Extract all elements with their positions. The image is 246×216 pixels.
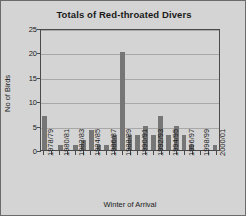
x-axis-label-slot: 1990/91 xyxy=(134,156,142,194)
x-axis-label-slot: 1996/97 xyxy=(181,156,189,194)
x-axis-label-slot: 1988/89 xyxy=(118,156,126,194)
x-axis-label: Winter of Arrival xyxy=(40,200,220,209)
x-axis-label-slot: 1978/79 xyxy=(40,156,48,194)
x-axis-tick-mark xyxy=(137,151,138,155)
x-axis-tick-label: 1998/99 xyxy=(202,129,211,156)
chart-figure: Totals of Red-throated Divers No of Bird… xyxy=(0,0,246,216)
x-axis-tick-label: 1986/87 xyxy=(109,129,118,156)
x-axis-tick-label: 1996/97 xyxy=(187,129,196,156)
x-axis-label-slot xyxy=(79,156,87,194)
x-axis-label-slot: 1992/93 xyxy=(150,156,158,194)
x-axis-label-slot xyxy=(63,156,71,194)
x-axis-label-slot: 1998/99 xyxy=(197,156,205,194)
y-axis-tick-labels: 2520151050 xyxy=(15,29,37,151)
x-axis-tick-mark xyxy=(122,151,123,155)
x-axis-tick-label: 1990/91 xyxy=(140,129,149,156)
x-axis-label-slot xyxy=(189,156,197,194)
x-axis-label-slot xyxy=(110,156,118,194)
x-axis-label-slot: 2000/01 xyxy=(212,156,220,194)
bar[interactable] xyxy=(213,145,218,150)
x-axis-tick-label: 1992/93 xyxy=(156,129,165,156)
x-axis-label-slot: 1994/95 xyxy=(165,156,173,194)
bar[interactable] xyxy=(182,135,187,150)
x-axis-label-slot xyxy=(95,156,103,194)
x-axis-label-slot xyxy=(142,156,150,194)
x-axis-tick-mark xyxy=(216,151,217,155)
x-axis-label-slot: 1986/87 xyxy=(103,156,111,194)
x-axis-tick-mark xyxy=(59,151,60,155)
x-axis-tick-label: 1988/89 xyxy=(124,129,133,156)
x-axis-tick-mark xyxy=(75,151,76,155)
x-axis-tick-label: 1984/85 xyxy=(93,129,102,156)
x-axis-tick-mark xyxy=(184,151,185,155)
x-axis-label-slot: 1984/85 xyxy=(87,156,95,194)
x-axis-label-slot xyxy=(173,156,181,194)
x-axis-tick-mark xyxy=(200,151,201,155)
x-axis-tick-mark xyxy=(169,151,170,155)
x-axis-label-slot xyxy=(204,156,212,194)
y-axis-label: No of Birds xyxy=(3,55,15,131)
x-axis-label-slot xyxy=(126,156,134,194)
bar[interactable] xyxy=(151,135,156,150)
x-axis-label-slot xyxy=(157,156,165,194)
x-axis-tick-label: 1982/83 xyxy=(77,129,86,156)
x-axis-label-slot: 1982/83 xyxy=(71,156,79,194)
x-axis-tick-labels: 1978/791980/811982/831984/851986/871988/… xyxy=(40,156,220,194)
x-axis-tick-mark xyxy=(43,151,44,155)
x-axis-tick-label: 2000/01 xyxy=(218,129,227,156)
chart-title: Totals of Red-throated Divers xyxy=(1,9,246,20)
x-axis-tick-label: 1980/81 xyxy=(62,129,71,156)
x-axis-label-slot: 1980/81 xyxy=(56,156,64,194)
x-axis-tick-mark xyxy=(106,151,107,155)
x-axis-label-slot xyxy=(48,156,56,194)
x-axis-tick-label: 1978/79 xyxy=(46,129,55,156)
x-axis-tick-mark xyxy=(153,151,154,155)
x-axis-tick-label: 1994/95 xyxy=(171,129,180,156)
x-axis-tick-mark xyxy=(90,151,91,155)
